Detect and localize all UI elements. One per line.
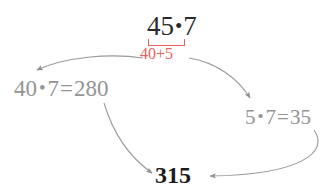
equals-icon: = — [59, 76, 74, 101]
left-branch-factor-a: 40 — [14, 76, 37, 101]
arrow-left-branch-to-result — [104, 103, 152, 173]
left-branch-product: 280 — [74, 76, 109, 101]
arrow-to-right-branch — [189, 58, 250, 98]
plus-icon: + — [156, 45, 165, 62]
top-expression: 45•7 — [147, 13, 197, 40]
top-left-factor: 45 — [147, 11, 174, 41]
right-branch-expression: 5•7=35 — [245, 107, 311, 128]
left-branch-factor-b: 7 — [48, 76, 60, 101]
decomp-first-part: 40 — [140, 45, 156, 62]
top-right-factor: 7 — [183, 11, 197, 41]
decomposition-expression: 40+5 — [140, 46, 173, 62]
multiplication-dot-icon: • — [256, 107, 266, 126]
equals-icon: = — [276, 105, 290, 129]
arrow-right-branch-to-result — [210, 130, 318, 176]
arrow-to-left-branch — [37, 56, 143, 70]
result-value: 315 — [155, 163, 191, 187]
right-branch-factor-a: 5 — [245, 105, 256, 129]
right-branch-factor-b: 7 — [266, 105, 277, 129]
multiplication-dot-icon: • — [37, 77, 48, 98]
multiplication-dot-icon: • — [174, 14, 183, 38]
left-branch-expression: 40•7=280 — [14, 77, 109, 100]
decomp-second-part: 5 — [165, 45, 173, 62]
right-branch-product: 35 — [290, 105, 311, 129]
diagram-canvas: 45•7 40+5 40•7=280 5•7=35 315 — [0, 0, 336, 196]
